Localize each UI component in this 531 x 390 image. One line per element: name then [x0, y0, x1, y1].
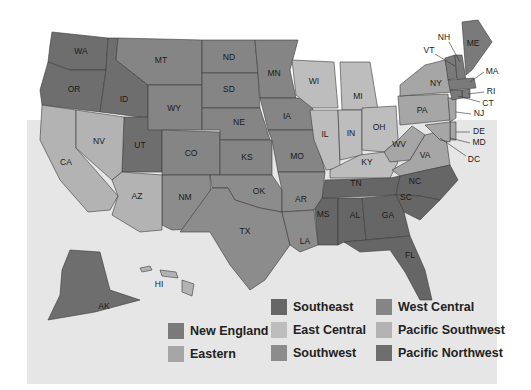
- swatch-pacific-southwest: [376, 322, 392, 338]
- legend-item-east-central: East Central: [271, 321, 366, 339]
- label-WV: WV: [392, 139, 406, 149]
- swatch-southwest: [271, 345, 287, 361]
- label-ME: ME: [467, 38, 480, 48]
- swatch-west-central: [376, 299, 392, 315]
- label-AK: AK: [98, 301, 110, 311]
- label-GA: GA: [382, 210, 395, 220]
- swatch-pacific-northwest: [376, 345, 392, 361]
- legend-item-west-central: West Central: [376, 298, 474, 316]
- label-MD: MD: [472, 137, 485, 147]
- label-MO: MO: [290, 151, 304, 161]
- label-WI: WI: [309, 76, 319, 86]
- label-OK: OK: [253, 186, 266, 196]
- legend-label: East Central: [293, 323, 366, 337]
- label-MT: MT: [155, 55, 167, 65]
- state-HI[interactable]: [140, 266, 194, 296]
- label-ND: ND: [223, 52, 235, 62]
- label-IL: IL: [321, 129, 328, 139]
- label-NE: NE: [233, 117, 245, 127]
- legend-item-southeast: Southeast: [271, 298, 353, 316]
- state-NY[interactable]: [400, 60, 452, 96]
- label-SD: SD: [223, 84, 235, 94]
- label-WY: WY: [167, 103, 181, 113]
- label-IA: IA: [283, 111, 291, 121]
- state-NH[interactable]: [455, 55, 466, 80]
- legend-item-pacific-southwest: Pacific Southwest: [376, 321, 505, 339]
- swatch-new-england: [168, 323, 184, 339]
- label-HI: HI: [155, 279, 164, 289]
- label-LA: LA: [300, 236, 311, 246]
- label-UT: UT: [134, 140, 145, 150]
- legend-item-southwest: Southwest: [271, 344, 356, 362]
- swatch-east-central: [271, 322, 287, 338]
- state-AZ[interactable]: [112, 172, 162, 232]
- legend-label: Southeast: [293, 300, 353, 314]
- label-NM: NM: [178, 192, 191, 202]
- legend-label: West Central: [398, 300, 474, 314]
- label-VA: VA: [420, 150, 431, 160]
- label-AL: AL: [350, 210, 361, 220]
- label-CA: CA: [60, 157, 72, 167]
- label-TX: TX: [240, 226, 251, 236]
- label-NH: NH: [438, 32, 450, 42]
- label-NJ: NJ: [474, 108, 484, 118]
- state-MI[interactable]: [340, 62, 378, 110]
- swatch-eastern: [168, 346, 184, 362]
- label-MI: MI: [353, 91, 362, 101]
- state-CT[interactable]: [450, 90, 462, 100]
- state-MA[interactable]: [448, 78, 476, 90]
- state-DE[interactable]: [450, 122, 456, 140]
- label-AR: AR: [295, 194, 307, 204]
- label-TN: TN: [350, 178, 361, 188]
- state-AL[interactable]: [338, 198, 366, 245]
- label-MN: MN: [267, 68, 280, 78]
- swatch-southeast: [271, 299, 287, 315]
- region-new-england: [445, 20, 492, 100]
- label-OR: OR: [68, 84, 81, 94]
- label-CO: CO: [185, 148, 198, 158]
- label-OH: OH: [373, 122, 386, 132]
- label-ID: ID: [120, 94, 129, 104]
- label-KY: KY: [361, 157, 373, 167]
- label-DC: DC: [468, 154, 480, 164]
- label-MA: MA: [486, 66, 499, 76]
- state-AK[interactable]: [48, 250, 140, 320]
- label-DE: DE: [473, 126, 485, 136]
- legend-label: Eastern: [190, 347, 236, 361]
- state-FL[interactable]: [344, 236, 432, 300]
- label-KS: KS: [241, 152, 253, 162]
- legend-item-new-england: New England: [168, 322, 268, 340]
- label-WA: WA: [74, 46, 88, 56]
- label-VT: VT: [424, 45, 435, 55]
- label-FL: FL: [405, 250, 415, 260]
- label-MS: MS: [317, 209, 330, 219]
- legend-label: Pacific Northwest: [398, 346, 503, 360]
- label-NV: NV: [93, 136, 105, 146]
- legend-item-eastern: Eastern: [168, 345, 236, 363]
- legend-label: New England: [190, 324, 268, 338]
- label-IN: IN: [347, 128, 356, 138]
- label-PA: PA: [417, 105, 428, 115]
- label-AZ: AZ: [132, 191, 143, 201]
- label-CT: CT: [482, 98, 493, 108]
- label-SC: SC: [400, 192, 412, 202]
- label-RI: RI: [487, 86, 496, 96]
- legend-item-pacific-northwest: Pacific Northwest: [376, 344, 503, 362]
- region-southeast: [314, 165, 458, 300]
- legend-label: Pacific Southwest: [398, 323, 505, 337]
- label-NC: NC: [409, 176, 421, 186]
- label-NY: NY: [430, 78, 442, 88]
- legend-label: Southwest: [293, 346, 356, 360]
- state-RI[interactable]: [462, 89, 470, 98]
